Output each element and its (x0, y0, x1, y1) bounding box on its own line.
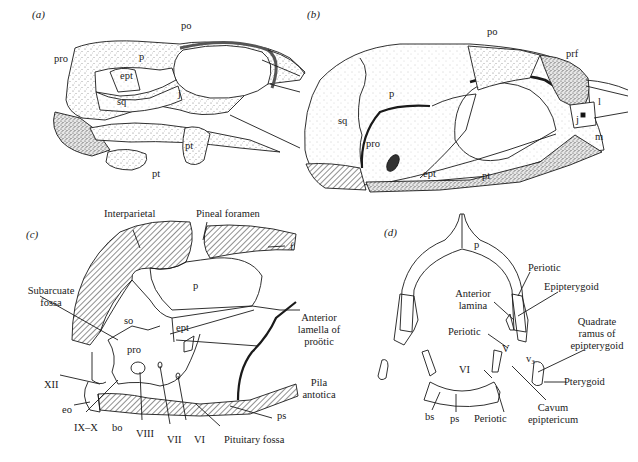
panel-b-label: (b) (307, 8, 320, 20)
label-d-quadrate-ramus-2: ramus of (556, 328, 638, 339)
label-a-sq: sq (117, 96, 126, 107)
label-c-pila-antotica-2: antotica (298, 389, 340, 400)
label-c-pro: pro (127, 344, 141, 355)
label-c-ept: ept (176, 322, 189, 333)
panel-a-label: (a) (32, 8, 45, 20)
label-a-p: p (139, 51, 144, 62)
label-d-ps: ps (450, 413, 459, 424)
label-c-subarcuate-1: Subarcuate (26, 285, 76, 296)
label-c-anterior-lamella-1: Anterior (292, 312, 346, 323)
label-c-pineal-foramen: Pineal foramen (196, 208, 260, 219)
label-d-v: V (502, 343, 510, 354)
label-b-p: p (389, 88, 394, 99)
label-d-periotic-upper: Periotic (528, 262, 561, 273)
label-c-bo: bo (112, 422, 123, 433)
label-d-vi: VI (459, 364, 470, 375)
label-d-p: p (474, 239, 479, 250)
label-c-vii: VII (167, 434, 182, 445)
label-c-interparietal: Interparietal (104, 208, 155, 219)
label-a-pt-lower: pt (152, 168, 160, 179)
label-b-sq: sq (338, 115, 347, 126)
label-b-m: m (595, 131, 603, 142)
label-d-bs: bs (425, 411, 434, 422)
label-d-v3: v₃ (526, 353, 535, 364)
label-d-periotic-lower: Periotic (474, 413, 507, 424)
panel-d-label: (d) (384, 226, 397, 238)
label-d-anterior-lamina-1: Anterior (448, 288, 498, 299)
label-d-cavum-1: Cavum (520, 402, 586, 413)
label-b-ept: ept (423, 168, 436, 179)
label-a-ept: ept (120, 70, 133, 81)
label-b-pro: pro (366, 138, 380, 149)
label-c-pituitary-fossa: Pituitary fossa (224, 434, 284, 445)
label-c-p: p (193, 280, 198, 291)
label-c-anterior-lamella-3: proötic (292, 336, 346, 347)
label-c-f: f (290, 241, 294, 252)
label-c-ps: ps (277, 410, 286, 421)
label-b-po: po (487, 26, 498, 37)
label-d-quadrate-ramus-1: Quadrate (556, 316, 638, 327)
label-a-po: po (181, 20, 192, 31)
label-c-subarcuate-2: fossa (26, 297, 76, 308)
label-d-pterygoid: Pterygoid (564, 376, 605, 387)
label-c-pila-antotica-1: Pila (298, 377, 340, 388)
panel-a-drawing (54, 41, 305, 170)
label-d-cavum-2: epiptericum (520, 414, 586, 425)
panel-d-drawing (378, 214, 584, 412)
label-c-eo: eo (62, 404, 72, 415)
label-d-periotic-middle: Periotic (448, 326, 481, 337)
label-c-vi: VI (194, 434, 205, 445)
label-b-prf: prf (566, 48, 578, 59)
label-b-j: j (576, 114, 579, 125)
panel-b-drawing (305, 44, 628, 192)
label-c-anterior-lamella-2: lamella of (292, 324, 346, 335)
panel-c-label: (c) (26, 228, 38, 240)
label-a-pt-upper: pt (185, 140, 193, 151)
label-c-xii: XII (44, 379, 59, 390)
label-d-quadrate-ramus-3: epipterygoid (556, 340, 638, 351)
label-d-epipterygoid: Epipterygoid (544, 281, 599, 292)
label-c-so: so (124, 315, 133, 326)
label-c-viii: VIII (136, 428, 154, 439)
label-b-l: l (598, 96, 601, 107)
label-a-j: j (178, 88, 181, 99)
label-d-anterior-lamina-2: lamina (448, 300, 498, 311)
panel-c-drawing (40, 221, 300, 426)
label-b-pt: pt (482, 170, 490, 181)
label-c-ix-x: IX–X (74, 422, 98, 433)
label-a-pro: pro (54, 53, 68, 64)
